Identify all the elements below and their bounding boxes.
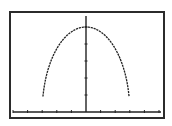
graph-plot bbox=[11, 13, 163, 117]
calculator-graph-screen bbox=[9, 11, 165, 119]
